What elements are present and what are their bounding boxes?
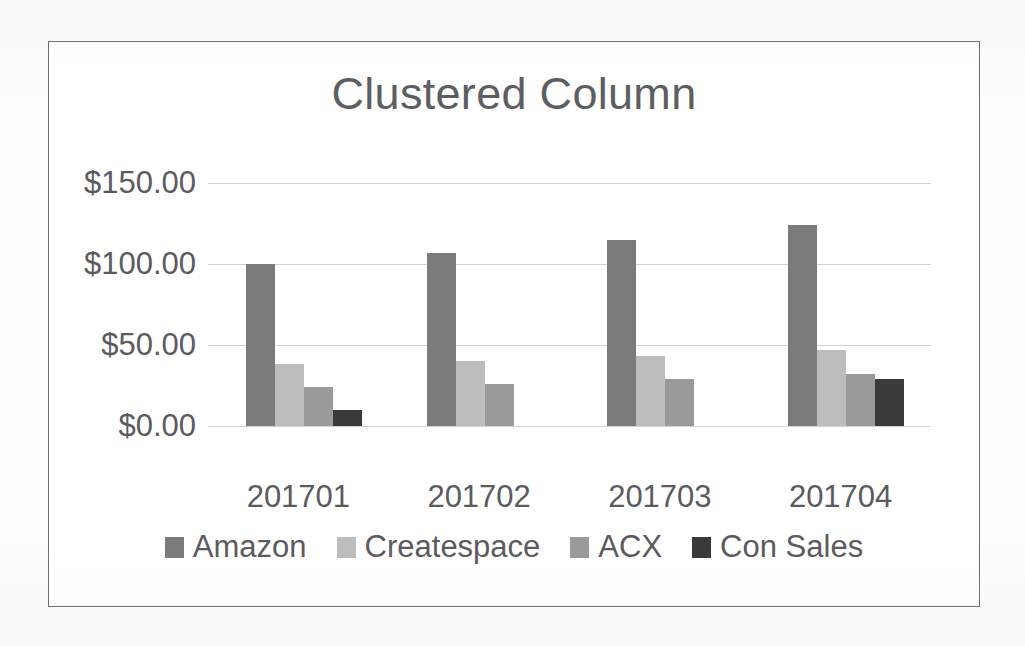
bar-cluster [208, 183, 389, 426]
bar-con-sales[interactable] [333, 410, 362, 426]
legend-label: Createspace [365, 529, 541, 565]
legend-label: Amazon [193, 529, 307, 565]
plot-area: $0.00$50.00$100.00$150.00 [208, 183, 931, 426]
bar-createspace[interactable] [275, 364, 304, 426]
x-axis-tick-label: 201703 [570, 479, 751, 515]
bar-createspace[interactable] [817, 350, 846, 426]
bar-cluster [750, 183, 931, 426]
bar-amazon[interactable] [607, 240, 636, 426]
y-axis-tick-label: $50.00 [101, 327, 196, 363]
legend-label: ACX [598, 529, 662, 565]
bar-clusters [208, 183, 931, 426]
chart-legend: AmazonCreatespaceACXCon Sales [49, 529, 979, 565]
bar-amazon[interactable] [246, 264, 275, 426]
x-axis-tick-label: 201701 [208, 479, 389, 515]
bar-amazon[interactable] [788, 225, 817, 426]
y-axis-tick-label: $100.00 [84, 246, 196, 282]
legend-swatch-icon [570, 537, 589, 558]
bar-acx[interactable] [846, 374, 875, 426]
x-axis-tick-label: 201704 [750, 479, 931, 515]
bar-acx[interactable] [485, 384, 514, 426]
bar-cluster-bars [570, 183, 751, 426]
y-axis-tick-label: $0.00 [118, 408, 196, 444]
bar-cluster-bars [389, 183, 570, 426]
bar-cluster-bars [750, 183, 931, 426]
legend-swatch-icon [337, 537, 356, 558]
bar-createspace[interactable] [636, 356, 665, 426]
chart-frame: Clustered Column $0.00$50.00$100.00$150.… [48, 41, 980, 607]
legend-item-amazon[interactable]: Amazon [165, 529, 307, 565]
chart-title: Clustered Column [49, 68, 979, 120]
legend-item-con-sales[interactable]: Con Sales [692, 529, 863, 565]
bar-amazon[interactable] [427, 253, 456, 426]
bar-createspace[interactable] [456, 361, 485, 426]
legend-item-createspace[interactable]: Createspace [337, 529, 541, 565]
x-axis-tick-label: 201702 [389, 479, 570, 515]
legend-label: Con Sales [720, 529, 863, 565]
x-axis-labels: 201701201702201703201704 [208, 479, 931, 515]
bar-acx[interactable] [665, 379, 694, 426]
legend-swatch-icon [692, 537, 711, 558]
bar-cluster [570, 183, 751, 426]
legend-swatch-icon [165, 537, 184, 558]
bar-acx[interactable] [304, 387, 333, 426]
gridline [208, 426, 931, 427]
bar-cluster [389, 183, 570, 426]
bar-cluster-bars [208, 183, 389, 426]
chart-page: Clustered Column $0.00$50.00$100.00$150.… [0, 0, 1025, 646]
y-axis-tick-label: $150.00 [84, 165, 196, 201]
legend-item-acx[interactable]: ACX [570, 529, 662, 565]
bar-con-sales[interactable] [875, 379, 904, 426]
